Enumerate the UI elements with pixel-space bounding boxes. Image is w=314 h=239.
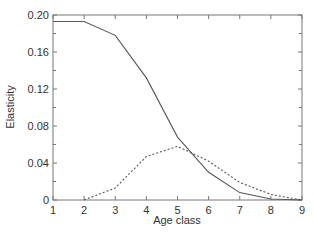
- elasticity-chart: 00.040.080.120.160.20 123456789 Age clas…: [0, 0, 314, 239]
- y-axis-ticks: 00.040.080.120.160.20: [28, 9, 302, 206]
- y-tick-label: 0.20: [28, 9, 49, 21]
- series-solid-line: [53, 21, 302, 200]
- x-axis-label: Age class: [153, 214, 201, 226]
- data-series: [53, 21, 302, 200]
- chart-canvas: 00.040.080.120.160.20 123456789 Age clas…: [0, 0, 314, 239]
- x-tick-label: 9: [299, 204, 305, 216]
- plot-frame: [53, 15, 302, 200]
- x-tick-label: 2: [81, 204, 87, 216]
- x-tick-label: 7: [237, 204, 243, 216]
- axes-box: [53, 15, 302, 200]
- x-tick-label: 8: [268, 204, 274, 216]
- y-tick-label: 0.04: [28, 157, 49, 169]
- y-axis-label: Elasticity: [4, 85, 16, 129]
- x-tick-label: 4: [143, 204, 149, 216]
- x-tick-label: 6: [206, 204, 212, 216]
- x-axis-ticks: 123456789: [50, 15, 305, 216]
- y-tick-label: 0: [43, 194, 49, 206]
- y-tick-label: 0.16: [28, 46, 49, 58]
- x-tick-label: 1: [50, 204, 56, 216]
- x-tick-label: 3: [112, 204, 118, 216]
- y-tick-label: 0.08: [28, 120, 49, 132]
- y-tick-label: 0.12: [28, 83, 49, 95]
